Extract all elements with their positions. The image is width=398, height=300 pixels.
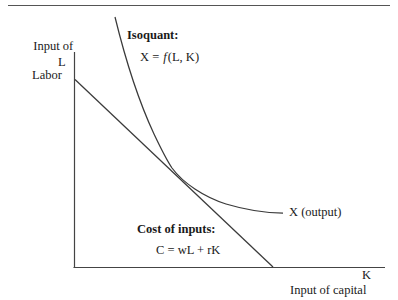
isoquant-formula-prefix: X =: [140, 50, 162, 64]
isocost-line: [75, 80, 273, 268]
output-curve-label: X (output): [289, 205, 341, 220]
isoquant-formula-label: X = f(L, K): [140, 50, 199, 65]
cost-title-label: Cost of inputs:: [137, 222, 216, 237]
x-axis-caption: Input of capital: [290, 283, 366, 298]
isoquant-curve: [115, 17, 283, 213]
figure-canvas: Input of Labor L Isoquant: X = f(L, K) X…: [0, 0, 398, 300]
y-axis-tick-label: L: [58, 55, 66, 70]
cost-formula-label: C = wL + rK: [156, 243, 220, 258]
y-axis-caption-line2: Labor: [8, 68, 86, 83]
isoquant-formula-suffix: (L, K): [168, 50, 199, 64]
isoquant-title-label: Isoquant:: [127, 28, 178, 43]
x-axis-tick-label: K: [362, 268, 371, 283]
y-axis-caption: Input of Labor: [8, 24, 86, 113]
y-axis-caption-line1: Input of: [33, 39, 73, 53]
